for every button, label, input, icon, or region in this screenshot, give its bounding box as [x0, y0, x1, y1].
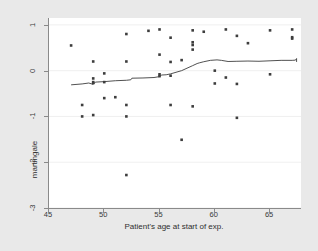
y-tick-mark — [44, 116, 48, 117]
data-point — [291, 28, 294, 31]
x-tick-mark — [159, 209, 160, 213]
data-point — [202, 30, 205, 33]
data-point — [92, 114, 95, 117]
data-point — [125, 115, 128, 118]
data-point — [269, 29, 272, 32]
data-point — [191, 29, 194, 32]
data-point — [169, 74, 172, 77]
data-point — [103, 97, 106, 100]
plot-canvas — [49, 18, 301, 208]
data-point — [70, 44, 73, 47]
data-point — [158, 28, 161, 31]
data-point — [225, 76, 228, 79]
data-point — [125, 33, 128, 36]
data-point — [169, 104, 172, 107]
data-point — [81, 115, 84, 118]
data-point — [225, 28, 228, 31]
data-point — [169, 61, 172, 64]
data-point — [236, 117, 239, 120]
data-point — [213, 82, 216, 85]
y-tick-mark — [44, 25, 48, 26]
x-axis-title: Patient's age at start of exp. — [48, 222, 300, 231]
data-point — [92, 77, 95, 80]
y-tick-label: -1 — [22, 111, 44, 121]
data-point — [269, 73, 272, 76]
plot-area — [48, 18, 301, 209]
x-tick-mark — [269, 209, 270, 213]
data-point — [247, 42, 250, 45]
data-point — [236, 83, 239, 86]
scatter-plot-figure: martingale 10-1-2-3 4550556065 Patient's… — [0, 0, 318, 251]
data-point — [103, 72, 106, 75]
data-point — [147, 30, 150, 33]
data-point — [158, 53, 161, 56]
data-point — [191, 48, 194, 51]
data-point — [169, 36, 172, 39]
y-tick-mark — [44, 208, 48, 209]
data-point — [291, 37, 294, 40]
data-point — [114, 96, 117, 99]
data-point — [191, 41, 194, 44]
x-tick-mark — [48, 209, 49, 213]
data-point — [180, 59, 183, 62]
data-point — [92, 60, 95, 63]
data-point — [125, 174, 128, 177]
y-tick-label: -2 — [22, 157, 44, 167]
data-point — [125, 104, 128, 107]
data-point — [81, 104, 84, 107]
x-tick-mark — [214, 209, 215, 213]
data-point — [213, 69, 216, 72]
y-tick-mark — [44, 162, 48, 163]
x-tick-mark — [103, 209, 104, 213]
y-tick-mark — [44, 71, 48, 72]
data-point — [191, 105, 194, 108]
data-point — [236, 35, 239, 38]
y-tick-label: 1 — [22, 20, 44, 30]
y-tick-label: 0 — [22, 66, 44, 76]
data-point — [125, 60, 128, 63]
data-point — [191, 44, 194, 47]
data-point — [180, 138, 183, 141]
